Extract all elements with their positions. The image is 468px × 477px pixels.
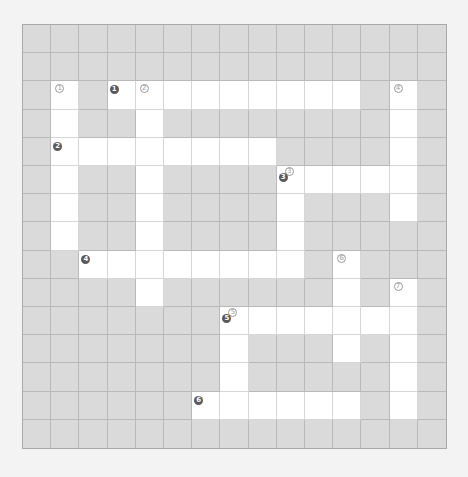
open-cell[interactable] bbox=[305, 307, 333, 335]
open-cell[interactable]: 6 bbox=[192, 392, 220, 420]
open-cell[interactable] bbox=[164, 138, 192, 166]
blocked-cell bbox=[108, 392, 136, 420]
open-cell[interactable] bbox=[136, 194, 164, 222]
open-cell[interactable] bbox=[220, 81, 248, 109]
open-cell[interactable] bbox=[333, 307, 361, 335]
open-cell[interactable] bbox=[361, 166, 389, 194]
blocked-cell bbox=[418, 392, 446, 420]
open-cell[interactable]: 2 bbox=[136, 81, 164, 109]
open-cell[interactable] bbox=[51, 194, 79, 222]
open-cell[interactable] bbox=[305, 166, 333, 194]
blocked-cell bbox=[79, 279, 107, 307]
open-cell[interactable] bbox=[390, 307, 418, 335]
blocked-cell bbox=[361, 222, 389, 250]
open-cell[interactable] bbox=[136, 166, 164, 194]
blocked-cell bbox=[23, 110, 51, 138]
open-cell[interactable] bbox=[51, 110, 79, 138]
open-cell[interactable]: 7 bbox=[390, 279, 418, 307]
open-cell[interactable] bbox=[136, 138, 164, 166]
open-cell[interactable] bbox=[192, 138, 220, 166]
open-cell[interactable] bbox=[390, 335, 418, 363]
open-cell[interactable] bbox=[79, 138, 107, 166]
blocked-cell bbox=[305, 251, 333, 279]
open-cell[interactable]: 6 bbox=[333, 251, 361, 279]
blocked-cell bbox=[79, 194, 107, 222]
open-cell[interactable] bbox=[108, 251, 136, 279]
open-cell[interactable] bbox=[390, 166, 418, 194]
blocked-cell bbox=[136, 307, 164, 335]
blocked-cell bbox=[79, 110, 107, 138]
open-cell[interactable] bbox=[136, 251, 164, 279]
open-cell[interactable] bbox=[249, 307, 277, 335]
blocked-cell bbox=[79, 307, 107, 335]
open-cell[interactable] bbox=[390, 392, 418, 420]
open-cell[interactable] bbox=[333, 335, 361, 363]
open-cell[interactable] bbox=[277, 392, 305, 420]
open-cell[interactable] bbox=[277, 81, 305, 109]
open-cell[interactable]: 1 bbox=[108, 81, 136, 109]
open-cell[interactable] bbox=[249, 392, 277, 420]
blocked-cell bbox=[390, 222, 418, 250]
blocked-cell bbox=[192, 110, 220, 138]
blocked-cell bbox=[333, 420, 361, 448]
blocked-cell bbox=[192, 335, 220, 363]
open-cell[interactable] bbox=[333, 166, 361, 194]
open-cell[interactable] bbox=[136, 222, 164, 250]
open-cell[interactable] bbox=[249, 251, 277, 279]
open-cell[interactable] bbox=[305, 392, 333, 420]
open-cell[interactable]: 2 bbox=[51, 138, 79, 166]
open-cell[interactable] bbox=[390, 194, 418, 222]
open-cell[interactable] bbox=[192, 251, 220, 279]
blocked-cell bbox=[305, 363, 333, 391]
blocked-cell bbox=[192, 25, 220, 53]
across-clue-number: 3 bbox=[279, 173, 288, 182]
open-cell[interactable] bbox=[390, 138, 418, 166]
blocked-cell bbox=[79, 363, 107, 391]
open-cell[interactable] bbox=[108, 138, 136, 166]
open-cell[interactable]: 33 bbox=[277, 166, 305, 194]
open-cell[interactable] bbox=[220, 138, 248, 166]
open-cell[interactable] bbox=[220, 335, 248, 363]
blocked-cell bbox=[23, 138, 51, 166]
open-cell[interactable] bbox=[220, 392, 248, 420]
open-cell[interactable] bbox=[390, 110, 418, 138]
blocked-cell bbox=[418, 307, 446, 335]
blocked-cell bbox=[249, 363, 277, 391]
open-cell[interactable] bbox=[277, 251, 305, 279]
open-cell[interactable] bbox=[164, 251, 192, 279]
blocked-cell bbox=[23, 392, 51, 420]
blocked-cell bbox=[192, 420, 220, 448]
open-cell[interactable] bbox=[249, 138, 277, 166]
open-cell[interactable]: 4 bbox=[79, 251, 107, 279]
open-cell[interactable] bbox=[136, 110, 164, 138]
open-cell[interactable]: 1 bbox=[51, 81, 79, 109]
blocked-cell bbox=[361, 25, 389, 53]
blocked-cell bbox=[418, 222, 446, 250]
open-cell[interactable] bbox=[51, 222, 79, 250]
down-clue-number: 7 bbox=[394, 282, 403, 291]
blocked-cell bbox=[79, 222, 107, 250]
blocked-cell bbox=[305, 279, 333, 307]
open-cell[interactable] bbox=[390, 363, 418, 391]
open-cell[interactable] bbox=[249, 81, 277, 109]
open-cell[interactable] bbox=[305, 81, 333, 109]
open-cell[interactable] bbox=[333, 279, 361, 307]
open-cell[interactable] bbox=[220, 251, 248, 279]
blocked-cell bbox=[23, 53, 51, 81]
open-cell[interactable]: 55 bbox=[220, 307, 248, 335]
open-cell[interactable] bbox=[277, 307, 305, 335]
open-cell[interactable] bbox=[333, 81, 361, 109]
open-cell[interactable] bbox=[220, 363, 248, 391]
open-cell[interactable] bbox=[136, 279, 164, 307]
blocked-cell bbox=[136, 363, 164, 391]
blocked-cell bbox=[79, 25, 107, 53]
open-cell[interactable]: 4 bbox=[390, 81, 418, 109]
open-cell[interactable] bbox=[361, 307, 389, 335]
open-cell[interactable] bbox=[51, 166, 79, 194]
open-cell[interactable] bbox=[192, 81, 220, 109]
open-cell[interactable] bbox=[164, 81, 192, 109]
open-cell[interactable] bbox=[277, 194, 305, 222]
open-cell[interactable] bbox=[333, 392, 361, 420]
blocked-cell bbox=[23, 307, 51, 335]
open-cell[interactable] bbox=[277, 222, 305, 250]
